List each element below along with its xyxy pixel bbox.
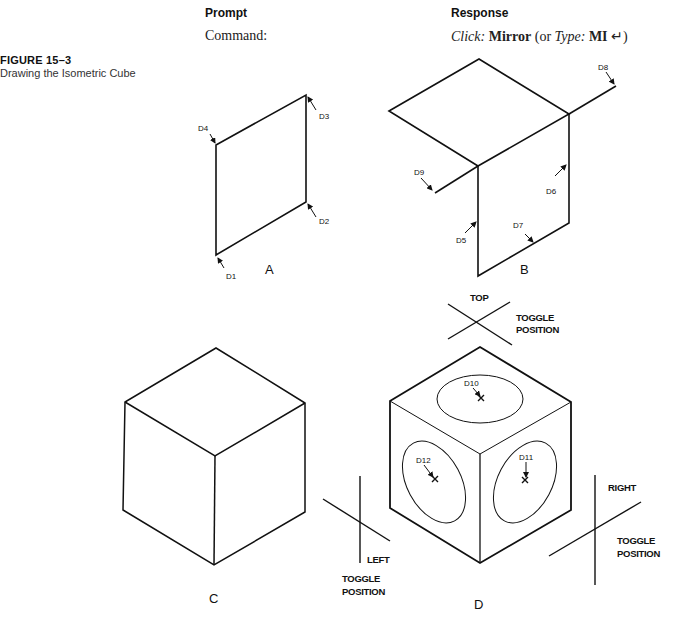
panel-label-c: C [209,591,218,606]
toggle-top-position: POSITION [516,324,559,335]
toggle-right-position: POSITION [617,548,660,559]
panel-label-d: D [474,597,483,612]
panel-b-top-face [389,59,569,166]
toggle-right-word: TOGGLE [617,535,655,546]
toggle-left-word: TOGGLE [342,573,380,584]
panel-b-leaders [421,72,614,242]
toggle-left-position: POSITION [342,586,385,597]
panel-b-mirror-line-d9 [435,166,478,193]
label-d2: D2 [319,217,330,226]
panel-a [216,95,306,255]
toggle-left-label: LEFT [367,554,390,565]
panel-d-top-edges [390,401,571,454]
panel-a-parallelogram [216,95,306,255]
isometric-cube-diagram: D4 D3 D2 D1 A D8 D9 D5 D6 D7 B C [0,0,685,618]
left-isocircle [390,430,479,533]
label-d8: D8 [598,63,609,72]
label-d10: D10 [464,379,479,388]
panel-c-front-edge [214,456,215,565]
toggle-right-label: RIGHT [608,482,637,493]
panel-label-a: A [265,262,274,277]
label-d12: D12 [416,456,431,465]
center-mark-d10 [478,395,484,401]
label-d9: D9 [414,168,425,177]
panel-d-leaders [424,388,526,477]
toggle-top-label: TOP [470,292,489,303]
label-d1: D1 [226,272,237,281]
label-d7: D7 [513,221,524,230]
label-d11: D11 [519,453,534,462]
top-toggle-cursor [448,302,512,345]
label-d3: D3 [319,112,330,121]
panel-d-cube [390,347,571,563]
panel-c-cube [123,348,305,565]
panel-b-mirror-line-d8 [569,86,616,114]
panel-label-b: B [520,262,529,277]
left-toggle-cursor [323,476,390,563]
label-d5: D5 [456,236,467,245]
label-d4: D4 [198,124,209,133]
center-mark-d11 [522,477,528,483]
panel-a-leaders [210,97,316,268]
toggle-top-word: TOGGLE [516,312,554,323]
label-d6: D6 [546,187,557,196]
panel-c-top-edges [125,402,305,456]
